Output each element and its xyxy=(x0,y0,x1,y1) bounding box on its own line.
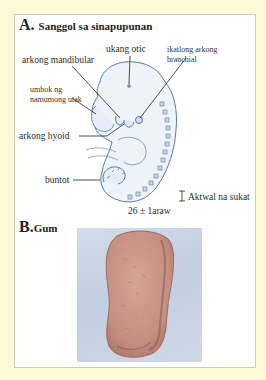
section-b-title: Gum xyxy=(34,222,58,234)
label-forebrain-1: umbok ng xyxy=(30,85,62,94)
label-otic-pit: ukang otic xyxy=(106,44,146,54)
label-third-branchial-arch-2: branchial xyxy=(167,55,197,64)
label-tail: buntot xyxy=(45,175,69,185)
age-label: 26 ± 1araw xyxy=(128,206,171,216)
label-third-branchial-arch-1: ikatlong arkong xyxy=(167,45,217,54)
label-hyoid-arch: arkong hyoid xyxy=(19,131,69,141)
scale-label: Aktwal na sukat xyxy=(188,192,250,202)
label-forebrain-2: namumong utak xyxy=(30,95,82,104)
section-b-heading: B.Gum xyxy=(19,218,58,236)
section-b-letter: B. xyxy=(19,218,34,235)
gum-shape xyxy=(77,228,202,362)
chewed-gum-photo xyxy=(77,228,202,362)
label-mandibular-arch: arkong mandibular xyxy=(22,55,94,65)
